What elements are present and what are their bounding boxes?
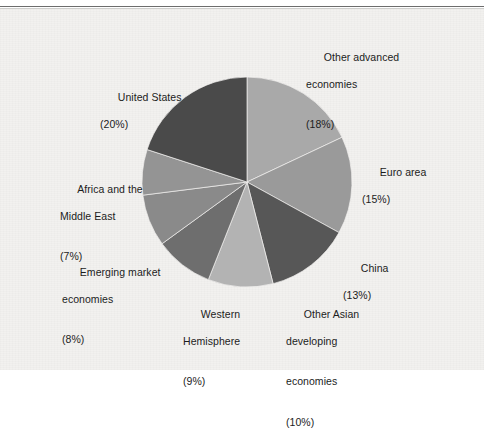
top-horizontal-rule <box>0 6 484 7</box>
slice-label-percent: (9%) <box>183 375 240 388</box>
slice-label-percent: (8%) <box>62 333 161 346</box>
slice-label-line1: Other advanced <box>324 51 399 63</box>
slice-label-line2: Middle East <box>60 210 143 223</box>
slice-label-western-hemisphere: Western Hemisphere (9%) <box>183 295 240 416</box>
slice-label-percent: (20%) <box>100 118 182 131</box>
slice-label-line2: economies <box>306 78 399 91</box>
slice-label-percent: (10%) <box>286 416 359 429</box>
slice-label-other-asian-developing-economies: Other Asian developing economies (10%) <box>286 295 359 432</box>
slice-label-line1: China <box>361 262 389 274</box>
slice-label-line1: Africa and the <box>77 183 143 195</box>
slice-label-africa-and-the-middle-east: Africa and the Middle East (7%) <box>60 170 143 291</box>
slice-label-percent: (15%) <box>362 193 426 206</box>
slice-label-line1: Euro area <box>380 166 427 178</box>
slice-label-line2: economies <box>62 293 161 306</box>
slice-label-line2: Hemisphere <box>183 335 240 348</box>
slice-label-percent: (18%) <box>306 118 399 131</box>
slice-label-united-states: United States (20%) <box>100 78 182 158</box>
pie-chart-area: Other advanced economies (18%) Euro area… <box>0 8 484 374</box>
slice-label-percent: (7%) <box>60 250 143 263</box>
slice-label-line2: developing <box>286 335 359 348</box>
slice-label-line3: economies <box>286 375 359 388</box>
slice-label-other-advanced-economies: Other advanced economies (18%) <box>306 38 399 159</box>
slice-label-line1: Western <box>201 308 240 320</box>
slice-label-line1: United States <box>118 91 182 103</box>
slice-label-euro-area: Euro area (15%) <box>362 153 426 233</box>
slice-label-line1: Other Asian <box>304 308 359 320</box>
